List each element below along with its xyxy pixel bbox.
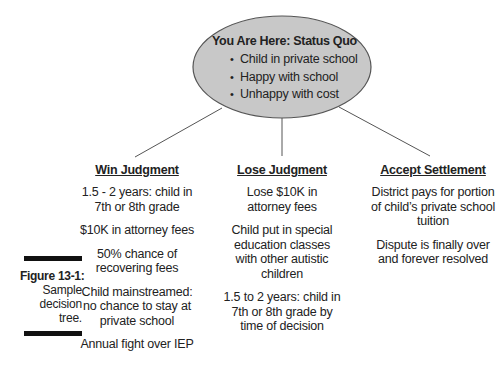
branch-item: Lose $10K in attorney fees <box>222 185 342 214</box>
root-node-list: Child in private school Happy with schoo… <box>212 51 362 104</box>
caption-text-line: decision <box>20 297 82 311</box>
root-bullet: Child in private school <box>230 51 362 69</box>
root-node-title: You Are Here: Status Quo <box>212 34 362 49</box>
branch-item: 50% chance of recovering fees <box>78 247 196 276</box>
connector-accept <box>339 107 430 156</box>
branch-item: Annual fight over IEP <box>78 337 196 352</box>
root-bullet: Happy with school <box>230 69 362 87</box>
branch-heading: Lose Judgment <box>222 163 342 178</box>
root-bullet: Unhappy with cost <box>230 86 362 104</box>
caption-divider-bottom <box>24 331 82 336</box>
branch-item: Child mainstreamed: no chance to stay at… <box>78 285 196 329</box>
branch-lose-judgment: Lose Judgment Lose $10K in attorney fees… <box>222 163 342 343</box>
caption-text-line: Sample <box>20 283 82 297</box>
branch-accept-settlement: Accept Settlement District pays for port… <box>370 163 496 276</box>
branch-item: Child put in special education classes w… <box>222 223 342 281</box>
branch-heading: Win Judgment <box>78 163 196 178</box>
branch-item: Dispute is finally over and forever reso… <box>370 238 496 267</box>
connector-win <box>135 108 222 157</box>
caption-text-line: tree. <box>20 311 82 325</box>
branch-item: 1.5 to 2 years: child in 7th or 8th grad… <box>222 290 342 334</box>
branch-win-judgment: Win Judgment 1.5 - 2 years: child in 7th… <box>78 163 196 361</box>
root-node: You Are Here: Status Quo Child in privat… <box>212 34 362 104</box>
caption-label: Figure 13-1: <box>20 269 82 283</box>
branch-item: $10K in attorney fees <box>78 223 196 238</box>
branch-heading: Accept Settlement <box>370 163 496 178</box>
caption-divider-top <box>24 256 82 261</box>
branch-item: District pays for portion of child’s pri… <box>370 185 496 229</box>
branch-item: 1.5 - 2 years: child in 7th or 8th grade <box>78 185 196 214</box>
figure-caption: Figure 13-1: Sample decision tree. <box>20 256 82 336</box>
